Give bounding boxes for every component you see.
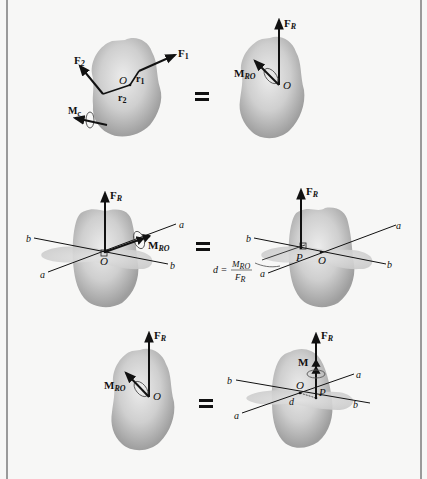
label-O: O xyxy=(283,79,291,91)
rigid-body-shape xyxy=(240,37,305,138)
figure-frame: F2 F1 O r1 r2 Mc FR MRO O xyxy=(0,0,427,479)
label-FR: FR xyxy=(154,329,167,343)
row-3-left-system: FR MRO O xyxy=(104,329,174,450)
row-2-equals-sign xyxy=(196,242,210,251)
label-P: P xyxy=(295,251,303,263)
point-O-marker xyxy=(299,392,302,395)
label-O: O xyxy=(153,390,161,402)
label-FR: FR xyxy=(321,329,334,343)
row-3-right-wrench: FR M O P d a a b b xyxy=(227,329,370,448)
label-axis-b-right: b xyxy=(170,260,175,271)
row-2-right-system: FR P O a a b b d = MRO FR xyxy=(213,185,401,307)
label-F1: F1 xyxy=(178,47,189,61)
point-P-marker xyxy=(315,397,318,400)
label-axis-b-right: b xyxy=(387,259,392,270)
label-O: O xyxy=(318,254,326,266)
label-M: M xyxy=(298,356,309,368)
label-axis-a-bottom: a xyxy=(260,268,265,279)
label-FR: FR xyxy=(306,185,319,199)
wrench-reduction-diagram: F2 F1 O r1 r2 Mc FR MRO O xyxy=(0,0,427,479)
label-axis-a-top: a xyxy=(179,219,184,230)
label-axis-b-left: b xyxy=(246,233,251,244)
distance-formula: d = MRO FR xyxy=(213,259,252,284)
label-Mc: Mc xyxy=(68,105,81,118)
label-axis-b-left: b xyxy=(227,375,232,386)
label-axis-b-right: b xyxy=(353,399,358,410)
rigid-body-shape xyxy=(92,38,162,136)
point-O-marker xyxy=(104,251,107,254)
distance-d-leader xyxy=(255,263,280,267)
label-axis-a-top: a xyxy=(356,369,361,380)
label-MRO: MRO xyxy=(148,239,170,253)
row-2-left-system: FR MRO O a a b b xyxy=(26,189,184,307)
label-O: O xyxy=(296,379,304,391)
formula-d-equals: d = xyxy=(213,264,227,275)
point-O-marker xyxy=(320,251,323,254)
row-1-left-force-system: F2 F1 O r1 r2 Mc xyxy=(68,38,189,136)
label-O: O xyxy=(100,255,108,267)
rigid-body-shape xyxy=(111,349,174,450)
row-1-equals-sign xyxy=(195,92,209,101)
label-axis-b-left: b xyxy=(26,233,31,244)
row-1-right-resultant-system: FR MRO O xyxy=(234,17,304,138)
formula-denominator: FR xyxy=(234,272,246,284)
row-3-equals-sign xyxy=(199,399,213,408)
label-axis-a-top: a xyxy=(396,220,401,231)
label-axis-a-bottom: a xyxy=(40,269,45,280)
label-P: P xyxy=(318,386,326,398)
label-O: O xyxy=(119,74,127,86)
label-axis-a-bottom: a xyxy=(234,410,239,421)
formula-numerator: MRO xyxy=(231,259,250,271)
point-O-marker xyxy=(129,84,132,87)
label-F2: F2 xyxy=(74,54,85,68)
label-FR: FR xyxy=(284,17,297,31)
label-FR: FR xyxy=(110,189,123,203)
